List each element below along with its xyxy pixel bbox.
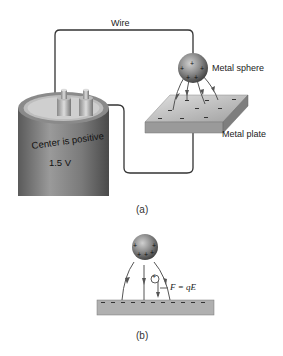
field-arrows-b [125,277,167,298]
metal-sphere-label: Metal sphere [212,63,264,73]
svg-text:+: + [180,65,184,72]
battery-label-line2: 1.5 V [30,158,90,168]
metal-plate-label: Metal plate [222,129,266,139]
svg-text:+: + [186,74,190,81]
svg-text:+: + [194,74,198,81]
wire-top [55,30,193,100]
metal-plate [145,95,248,133]
test-charge-sign: + [152,273,156,280]
diagram-canvas: + + + + + [0,0,283,356]
svg-text:+: + [137,251,141,258]
field-lines-b [122,262,170,300]
svg-text:+: + [190,60,194,67]
force-equation: F = qE [170,282,196,292]
caption-a: (a) [136,204,148,215]
figure-a: + + + + + [18,30,248,196]
metal-sphere: + + + + + [178,53,208,83]
svg-text:+: + [144,251,148,258]
svg-text:+: + [152,242,156,249]
svg-text:+: + [133,242,137,249]
svg-text:+: + [150,249,154,256]
caption-b: (b) [136,330,148,341]
battery-terminal-right [79,89,93,116]
wire-label: Wire [111,18,130,28]
svg-text:+: + [200,65,204,72]
